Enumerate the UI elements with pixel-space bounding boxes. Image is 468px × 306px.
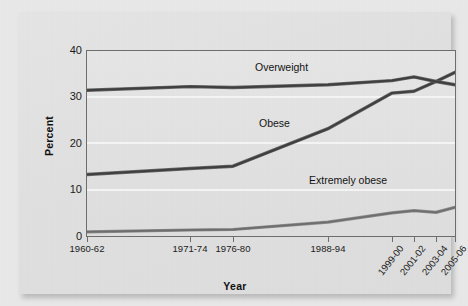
x-tickmark-1960-62: [87, 237, 88, 242]
x-tickmark-2003-04: [436, 237, 437, 242]
y-tick-0: 0: [42, 231, 82, 242]
x-tickmark-1971-74: [190, 237, 191, 242]
x-tickmark-2001-02: [414, 237, 415, 242]
x-tick-label-1976-80: 1976-80: [216, 243, 251, 254]
x-tick-label-1960-62: 1960-62: [70, 243, 105, 254]
series-label-overweight: Overweight: [255, 61, 308, 73]
plot-area: Overweight Obese Extremely obese: [86, 50, 456, 237]
y-axis-title: Percent: [43, 101, 55, 171]
x-tick-label-1988-94: 1988-94: [311, 243, 346, 254]
x-tickmark-2005-06: [455, 237, 456, 242]
y-tick-10: 10: [42, 184, 82, 195]
x-axis-title: Year: [19, 280, 451, 292]
x-tickmark-1988-94: [328, 237, 329, 242]
line-overweight-core: [87, 77, 455, 90]
page-background: Overweight Obese Extremely obese 40 30 2…: [0, 0, 468, 306]
series-lines: [87, 51, 455, 236]
figure-panel: Overweight Obese Extremely obese 40 30 2…: [19, 12, 451, 294]
x-tickmark-1976-80: [233, 237, 234, 242]
series-label-extremely-obese: Extremely obese: [309, 174, 387, 186]
series-label-obese: Obese: [259, 117, 290, 129]
y-tick-40: 40: [42, 45, 82, 56]
x-tickmark-1999-00: [392, 237, 393, 242]
line-extremely-obese: [87, 207, 455, 232]
x-tick-label-1971-74: 1971-74: [173, 243, 208, 254]
